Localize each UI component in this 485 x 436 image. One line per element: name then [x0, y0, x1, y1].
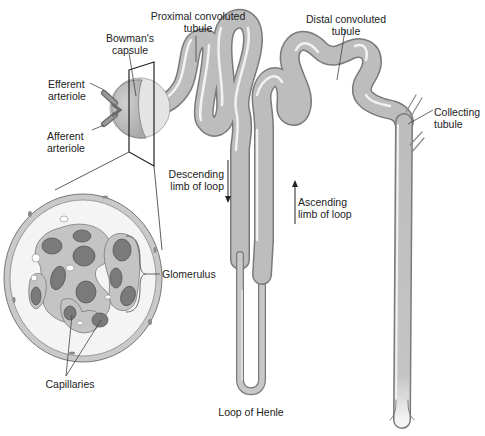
label-capillaries: Capillaries [40, 378, 100, 390]
label-line: Descending [168, 168, 224, 180]
label-loop-of-henle: Loop of Henle [216, 406, 286, 418]
label-line: Proximal convoluted [148, 10, 248, 22]
label-line: tubule [434, 118, 480, 130]
label-distal-convoluted-tubule: Distal convoluted tubule [296, 13, 396, 37]
label-ascending-limb: Ascending limb of loop [298, 196, 352, 220]
label-line: limb of loop [168, 180, 224, 192]
label-line: Distal convoluted [296, 13, 396, 25]
tubule-system [150, 19, 424, 420]
label-line: Efferent [48, 78, 86, 90]
label-line: Bowman's [100, 32, 160, 44]
label-line: tubule [296, 25, 396, 37]
label-line: capsule [100, 44, 160, 56]
label-line: tubule [148, 22, 248, 34]
label-line: Afferent [47, 130, 85, 142]
nephron-illustration [0, 0, 485, 436]
label-descending-limb: Descending limb of loop [168, 168, 224, 192]
label-proximal-convoluted-tubule: Proximal convoluted tubule [148, 10, 248, 34]
label-bowmans-capsule: Bowman's capsule [100, 32, 160, 56]
label-line: Ascending [298, 196, 352, 208]
label-efferent-arteriole: Efferent arteriole [48, 78, 86, 102]
label-line: Collecting [434, 106, 480, 118]
label-afferent-arteriole: Afferent arteriole [47, 130, 85, 154]
glomerulus-cross-section [4, 194, 162, 362]
label-glomerulus: Glomerulus [162, 268, 216, 280]
nephron-diagram: Proximal convoluted tubule Distal convol… [0, 0, 485, 436]
label-line: arteriole [48, 90, 86, 102]
label-line: arteriole [47, 142, 85, 154]
bowmans-capsule [104, 78, 170, 138]
label-line: limb of loop [298, 208, 352, 220]
label-collecting-tubule: Collecting tubule [434, 106, 480, 130]
